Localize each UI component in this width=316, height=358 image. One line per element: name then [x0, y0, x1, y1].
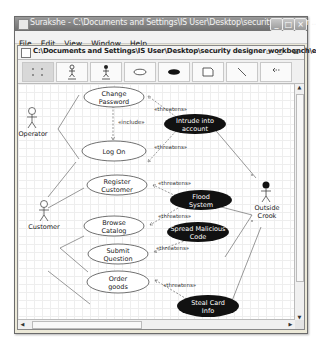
association-tool[interactable] — [226, 62, 258, 82]
operator-label: Operator — [18, 130, 48, 138]
close-button[interactable]: × — [294, 18, 307, 31]
ellipse-icon — [125, 63, 155, 81]
association-line[interactable] — [48, 162, 76, 197]
rectangle-icon — [193, 63, 223, 81]
threatens-label: «threatens» — [158, 213, 191, 219]
association-line[interactable] — [60, 236, 88, 272]
scroll-left-icon[interactable]: ◀ — [18, 321, 27, 327]
palette-toolbar — [18, 60, 304, 84]
association-line[interactable] — [48, 271, 90, 304]
scroll-up-icon[interactable]: ▲ — [295, 84, 304, 90]
use-case-label: Ordergoods — [87, 274, 149, 291]
outside-crook-misactor-icon[interactable] — [261, 182, 271, 203]
customer-label: Customer — [26, 223, 62, 231]
horizontal-scroll-thumb[interactable] — [32, 321, 142, 329]
selection-handle[interactable] — [251, 174, 253, 176]
misuse-case-label: Intrude intoaccount — [164, 116, 226, 133]
operator-actor-icon[interactable] — [27, 108, 37, 129]
use-case-label: BrowseCatalog — [84, 218, 144, 235]
relationship-tool[interactable] — [260, 62, 292, 82]
actor-tool[interactable] — [56, 62, 88, 82]
threatens-label: «threatens» — [156, 245, 189, 251]
internal-frame: C:\Documents and Settings\IS User\Deskto… — [17, 45, 305, 330]
include-label: «include» — [118, 119, 145, 125]
misuse-case-label: FloodSystem — [170, 192, 232, 209]
document-title-bar[interactable]: C:\Documents and Settings\IS User\Deskto… — [18, 46, 304, 60]
association-line[interactable] — [58, 95, 79, 159]
selection-handle[interactable] — [251, 220, 253, 222]
use-case-tool[interactable] — [124, 62, 156, 82]
filled-ellipse-icon — [159, 63, 189, 81]
line-icon — [227, 63, 257, 81]
use-case-label: Log On — [82, 143, 146, 160]
misuse-case-label: Steal CardInfo — [177, 298, 239, 315]
title-bar[interactable]: Surakshe - C:\Documents and Settings\IS … — [15, 17, 307, 31]
misuse-case-label: Spread MaliciousCode — [167, 224, 229, 241]
actor-icon — [57, 63, 87, 81]
document-path: C:\Documents and Settings\IS User\Deskto… — [33, 47, 316, 55]
use-case-diagram — [18, 84, 295, 320]
scroll-corner — [295, 320, 304, 329]
use-case-label: ChangePassword — [84, 89, 144, 106]
association-line[interactable] — [230, 227, 261, 306]
use-case-label: SubmitQuestion — [88, 246, 148, 263]
app-window: Surakshe - C:\Documents and Settings\IS … — [14, 16, 308, 334]
restore-icon[interactable]: ▫ — [266, 48, 271, 56]
threatens-label: «threatens» — [163, 282, 196, 288]
threatens-label: «threatens» — [154, 144, 187, 150]
threatens-label: «threatens» — [158, 180, 191, 186]
document-icon — [21, 48, 31, 58]
app-icon — [18, 19, 29, 30]
customer-actor-icon[interactable] — [39, 201, 49, 222]
menu-bar: File Edit View Window Help — [15, 31, 307, 44]
threatens-label: «threatens» — [154, 106, 187, 112]
select-grid-icon — [23, 63, 53, 81]
misactor-icon — [91, 63, 121, 81]
outside-crook-label: OutsideCrook — [250, 204, 284, 220]
use-case-label: RegisterCustomer — [87, 177, 147, 194]
close-icon[interactable]: ⊠ — [293, 48, 299, 56]
select-tool[interactable] — [22, 62, 54, 82]
scroll-right-icon[interactable]: ▶ — [286, 321, 295, 327]
system-boundary-tool[interactable] — [192, 62, 224, 82]
vertical-scroll-thumb[interactable] — [296, 94, 304, 282]
vertical-scrollbar[interactable]: ▲ ▼ — [294, 84, 304, 320]
misactor-tool[interactable] — [90, 62, 122, 82]
misuse-case-tool[interactable] — [158, 62, 190, 82]
horizontal-scrollbar[interactable]: ◀ ▶ — [18, 319, 295, 329]
association-line[interactable] — [48, 188, 84, 208]
maximize-icon[interactable]: ◻ — [277, 48, 283, 56]
diagram-canvas[interactable]: ChangePassword Log On RegisterCustomer B… — [18, 84, 295, 320]
dashed-arrow-icon — [261, 63, 291, 81]
